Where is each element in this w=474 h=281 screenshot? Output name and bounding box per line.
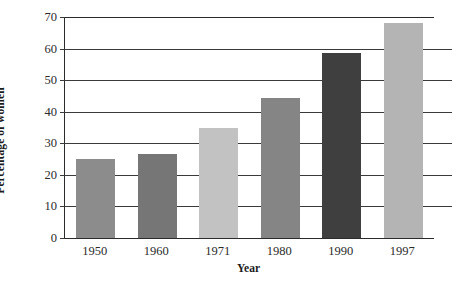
- x-axis-tick-label: 1971: [205, 244, 230, 259]
- y-axis-title: Percentage of women: [0, 0, 36, 281]
- y-axis-tick-mark: [434, 175, 452, 176]
- y-axis-tick-label: 20: [45, 167, 58, 182]
- y-axis-tick-label: 60: [45, 41, 58, 56]
- x-axis-tick-label: 1980: [267, 244, 292, 259]
- bar-1980: [261, 98, 300, 238]
- y-axis-tick-mark: [434, 49, 452, 50]
- y-axis-tick-mark: [434, 143, 452, 144]
- y-axis-tick-mark: [434, 206, 452, 207]
- y-axis-tick-label: 30: [45, 136, 58, 151]
- x-axis-tick-label: 1950: [82, 244, 107, 259]
- y-axis-tick-mark: [434, 112, 452, 113]
- x-axis-tick-label: 1960: [144, 244, 169, 259]
- bar-1950: [76, 159, 115, 238]
- bar-chart: Percentage of women 010203040506070 1950…: [0, 0, 474, 281]
- y-axis-tick-label: 70: [45, 10, 58, 25]
- bar-1990: [322, 53, 361, 238]
- bars-layer: [65, 17, 434, 238]
- x-axis-tick-label: 1990: [328, 244, 353, 259]
- y-axis-tick-mark: [60, 238, 65, 239]
- bar-1997: [384, 23, 423, 238]
- y-axis-tick-label: 0: [51, 231, 57, 246]
- x-axis-title: Year: [64, 262, 433, 274]
- bar-1971: [199, 128, 238, 239]
- y-axis-tick-mark: [434, 80, 452, 81]
- y-axis-tick-label: 10: [45, 199, 58, 214]
- plot-area: 010203040506070: [64, 17, 434, 239]
- y-axis-tick-label: 50: [45, 73, 58, 88]
- y-axis-tick-label: 40: [45, 104, 58, 119]
- x-axis-tick-label: 1997: [390, 244, 415, 259]
- bar-1960: [138, 154, 177, 238]
